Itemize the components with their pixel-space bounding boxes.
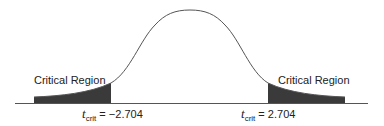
left-critical-value-label: tcrit = −2.704 — [82, 106, 143, 123]
left-critical-region — [34, 83, 111, 103]
right-critical-value-label: tcrit = 2.704 — [241, 106, 295, 123]
left-critical-region-label: Critical Region — [34, 74, 106, 86]
crit-subscript: crit — [86, 114, 97, 123]
critical-value: −2.704 — [109, 108, 143, 120]
equals-sign: = — [96, 108, 109, 120]
right-critical-region-label: Critical Region — [278, 74, 350, 86]
t-distribution-diagram: Critical Region Critical Region tcrit = … — [0, 0, 384, 126]
critical-value: 2.704 — [268, 108, 296, 120]
equals-sign: = — [255, 108, 268, 120]
distribution-plot — [0, 0, 384, 126]
right-critical-region — [268, 83, 345, 103]
crit-subscript: crit — [245, 114, 256, 123]
